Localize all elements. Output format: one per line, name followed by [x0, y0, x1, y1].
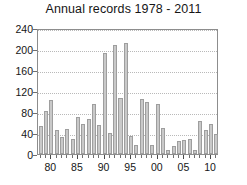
- x-tick-mark: [66, 155, 67, 158]
- x-tick-mark: [61, 155, 62, 158]
- x-tick-mark: [199, 155, 200, 158]
- x-tick-mark: [45, 155, 46, 158]
- bar: [87, 119, 91, 154]
- bar: [140, 99, 144, 154]
- bar: [150, 145, 154, 154]
- x-tick-mark: [173, 155, 174, 158]
- x-tick-mark-major: [130, 155, 131, 159]
- x-tick-mark: [120, 155, 121, 158]
- x-tick-label: 95: [119, 161, 141, 173]
- bar: [161, 128, 165, 154]
- bar: [118, 98, 122, 154]
- bar: [55, 130, 59, 154]
- x-tick-mark: [56, 155, 57, 158]
- bar: [188, 139, 192, 154]
- plot-area: [37, 29, 218, 155]
- x-tick-mark: [72, 155, 73, 158]
- bar: [134, 145, 138, 154]
- bar: [97, 125, 101, 154]
- x-tick-label: 80: [39, 161, 61, 173]
- x-tick-mark: [82, 155, 83, 158]
- x-tick-mark: [141, 155, 142, 158]
- x-tick-label: 10: [199, 161, 221, 173]
- x-tick-mark: [135, 155, 136, 158]
- x-axis-labels: 80859095000510: [37, 161, 218, 175]
- bar: [182, 140, 186, 154]
- y-tick-label: 160: [0, 66, 33, 76]
- x-tick-mark-major: [77, 155, 78, 159]
- x-tick-mark-major: [210, 155, 211, 159]
- bar: [129, 136, 133, 154]
- bar: [103, 53, 107, 154]
- x-tick-mark: [109, 155, 110, 158]
- x-tick-label: 00: [146, 161, 168, 173]
- y-tick-label: 0: [0, 150, 33, 160]
- x-tick-mark: [40, 155, 41, 158]
- bar: [92, 104, 96, 154]
- x-tick-label: 05: [172, 161, 194, 173]
- x-tick-mark: [151, 155, 152, 158]
- bar: [204, 130, 208, 154]
- x-tick-mark: [215, 155, 216, 158]
- bar: [172, 146, 176, 154]
- x-tick-mark: [205, 155, 206, 158]
- x-tick-mark: [178, 155, 179, 158]
- x-tick-mark-major: [157, 155, 158, 159]
- x-tick-mark-major: [183, 155, 184, 159]
- y-tick-label: 80: [0, 108, 33, 118]
- bar: [76, 117, 80, 154]
- bar: [156, 104, 160, 154]
- x-tick-mark: [114, 155, 115, 158]
- x-tick-mark: [146, 155, 147, 158]
- x-tick-mark: [167, 155, 168, 158]
- y-tick-label: 40: [0, 129, 33, 139]
- bar: [113, 45, 117, 154]
- y-axis-labels: 04080120160200240: [0, 29, 33, 155]
- x-tick-mark: [189, 155, 190, 158]
- x-tick-mark-major: [104, 155, 105, 159]
- x-tick-mark: [88, 155, 89, 158]
- bar: [81, 124, 85, 154]
- bar: [39, 126, 43, 154]
- x-tick-label: 90: [93, 161, 115, 173]
- bars-layer: [38, 30, 217, 154]
- x-tick-mark: [194, 155, 195, 158]
- bar: [145, 102, 149, 154]
- bar: [209, 124, 213, 154]
- x-tick-label: 85: [66, 161, 88, 173]
- bar: [108, 133, 112, 154]
- x-axis-ticks: [37, 155, 218, 159]
- bar: [49, 100, 53, 154]
- x-tick-mark: [98, 155, 99, 158]
- bar: [124, 43, 128, 154]
- x-tick-mark: [93, 155, 94, 158]
- chart-figure: Annual records 1978 - 2011 0408012016020…: [0, 0, 247, 185]
- x-tick-mark: [125, 155, 126, 158]
- bar: [166, 150, 170, 154]
- bar: [214, 134, 218, 154]
- bar: [71, 139, 75, 154]
- bar: [60, 137, 64, 154]
- y-tick-label: 120: [0, 87, 33, 97]
- y-tick-label: 200: [0, 45, 33, 55]
- bar: [177, 141, 181, 154]
- bar: [198, 121, 202, 154]
- bar: [193, 150, 197, 154]
- x-tick-mark-major: [50, 155, 51, 159]
- bar: [44, 111, 48, 154]
- y-tick-label: 240: [0, 24, 33, 34]
- chart-title: Annual records 1978 - 2011: [0, 2, 247, 16]
- x-tick-mark: [162, 155, 163, 158]
- bar: [65, 129, 69, 154]
